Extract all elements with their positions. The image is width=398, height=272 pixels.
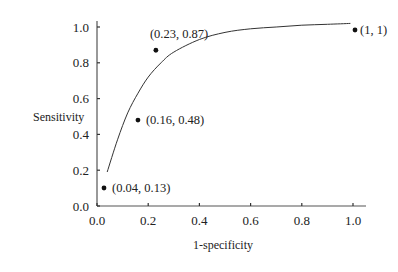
- x-tick-label: 1.0: [345, 213, 361, 228]
- y-tick-label: 0.4: [73, 127, 90, 142]
- data-point-label: (0.04, 0.13): [112, 181, 170, 195]
- y-tick-label: 1.0: [73, 20, 89, 35]
- data-point-marker: [353, 28, 358, 33]
- data-point-marker: [102, 186, 107, 191]
- y-tick-label: 0.6: [73, 91, 90, 106]
- roc-chart: 0.00.20.40.60.81.00.00.20.40.60.81.0 (0.…: [0, 0, 398, 272]
- data-point-marker: [153, 48, 158, 53]
- y-tick-label: 0.8: [73, 55, 89, 70]
- x-tick-label: 0.2: [140, 213, 156, 228]
- data-points: (0.04, 0.13)(0.16, 0.48)(0.23, 0.87)(1, …: [102, 23, 387, 195]
- data-point-label: (0.23, 0.87): [150, 27, 208, 41]
- x-tick-label: 0.6: [242, 213, 259, 228]
- axes: [97, 21, 366, 206]
- y-tick-label: 0.0: [73, 199, 89, 214]
- x-tick-label: 0.4: [191, 213, 208, 228]
- y-tick-label: 0.2: [73, 163, 89, 178]
- data-point-marker: [136, 118, 141, 123]
- ticks: 0.00.20.40.60.81.00.00.20.40.60.81.0: [73, 20, 361, 229]
- x-axis-label: 1-specificity: [193, 238, 253, 252]
- fitted-roc-curve: [107, 23, 350, 172]
- data-point-label: (1, 1): [360, 23, 387, 37]
- x-tick-label: 0.0: [89, 213, 105, 228]
- x-tick-label: 0.8: [294, 213, 310, 228]
- data-point-label: (0.16, 0.48): [146, 113, 204, 127]
- y-axis-label: Sensitivity: [33, 110, 84, 124]
